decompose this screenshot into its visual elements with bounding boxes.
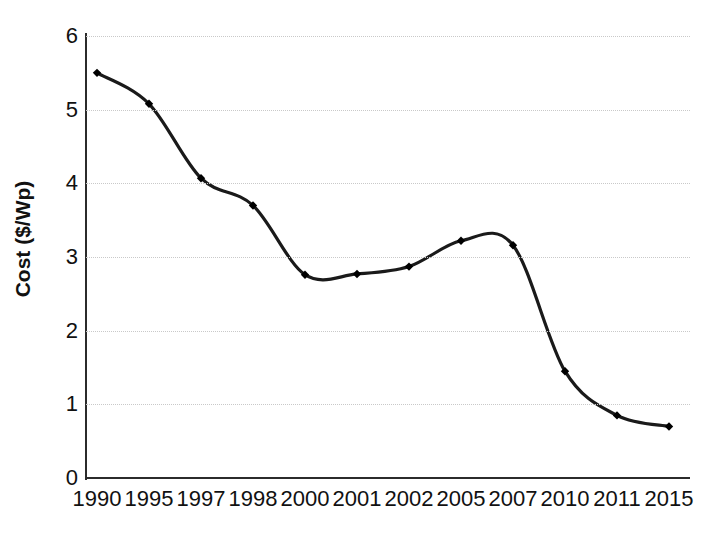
x-tick-label-2001: 2001 xyxy=(333,487,382,511)
x-tick-label-2000: 2000 xyxy=(281,487,330,511)
data-point-2015 xyxy=(665,422,673,430)
x-tick-label-2002: 2002 xyxy=(385,487,434,511)
x-tick-label-1995: 1995 xyxy=(125,487,174,511)
y-tick-label-4: 4 xyxy=(46,172,78,194)
x-tick-label-1998: 1998 xyxy=(229,487,278,511)
gridline-y-1 xyxy=(86,404,690,405)
x-tick-label-2007: 2007 xyxy=(489,487,538,511)
x-tick-label-2010: 2010 xyxy=(541,487,590,511)
y-axis-tick-labels: 0123456 xyxy=(46,0,78,535)
y-tick-label-1: 1 xyxy=(46,393,78,415)
gridline-y-2 xyxy=(86,331,690,332)
gridline-y-3 xyxy=(86,257,690,258)
data-point-2005 xyxy=(457,237,465,245)
chart-figure: Cost ($/Wp) 0123456 19901995199719982000… xyxy=(0,0,704,535)
x-tick-label-1990: 1990 xyxy=(73,487,122,511)
x-tick-label-2011: 2011 xyxy=(593,487,640,511)
data-point-2002 xyxy=(405,262,413,270)
y-tick-label-6: 6 xyxy=(46,25,78,47)
gridline-y-4 xyxy=(86,183,690,184)
data-point-2001 xyxy=(353,270,361,278)
x-tick-label-2015: 2015 xyxy=(645,487,694,511)
y-tick-label-2: 2 xyxy=(46,320,78,342)
x-tick-label-2005: 2005 xyxy=(437,487,486,511)
y-tick-label-3: 3 xyxy=(46,246,78,268)
x-axis-tick-labels: 1990199519971998200020012002200520072010… xyxy=(0,487,704,521)
gridline-y-6 xyxy=(86,36,690,37)
y-axis-title: Cost ($/Wp) xyxy=(0,0,46,478)
x-tick-label-1997: 1997 xyxy=(177,487,226,511)
plot-area xyxy=(86,36,690,478)
cost-line-path xyxy=(97,73,669,427)
gridline-y-5 xyxy=(86,110,690,111)
y-axis-title-text: Cost ($/Wp) xyxy=(11,181,35,298)
y-tick-label-5: 5 xyxy=(46,99,78,121)
